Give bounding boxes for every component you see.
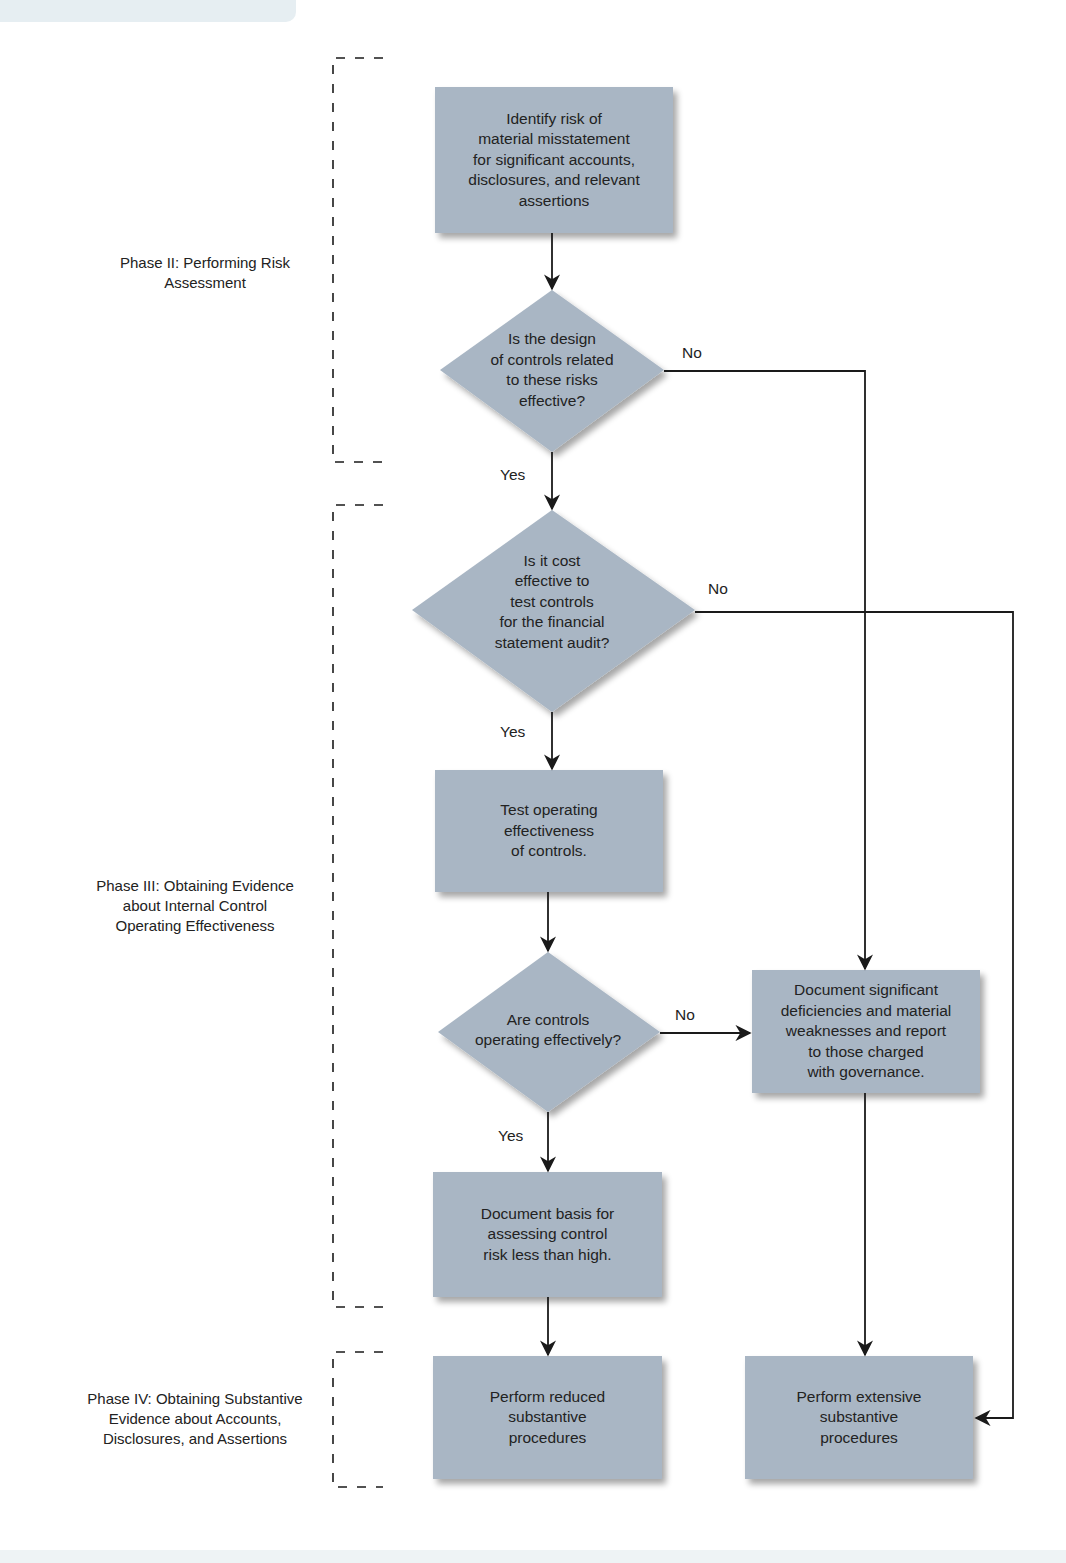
node-design-effective	[440, 290, 664, 452]
design-no-label: No	[682, 344, 702, 362]
design-yes-label: Yes	[500, 466, 525, 484]
phase3-label: Phase III: Obtaining Evidence about Inte…	[40, 876, 350, 936]
cost-no-label: No	[708, 580, 728, 598]
node-operating-effectively	[438, 952, 660, 1112]
node-document-deficiencies	[752, 970, 980, 1093]
phase4-label: Phase IV: Obtaining Substantive Evidence…	[40, 1389, 350, 1449]
node-extensive-procedures	[745, 1356, 973, 1479]
operating-no-label: No	[675, 1006, 695, 1024]
node-identify-risk	[435, 87, 673, 233]
flowchart-canvas	[0, 0, 1066, 1563]
operating-yes-label: Yes	[498, 1127, 523, 1145]
edge-design-no	[664, 371, 865, 969]
node-document-basis	[433, 1172, 662, 1297]
cost-yes-label: Yes	[500, 723, 525, 741]
node-reduced-procedures	[433, 1356, 662, 1479]
phase2-label: Phase II: Performing Risk Assessment	[60, 253, 350, 293]
node-test-operating	[435, 770, 663, 892]
node-cost-effective	[412, 510, 695, 712]
